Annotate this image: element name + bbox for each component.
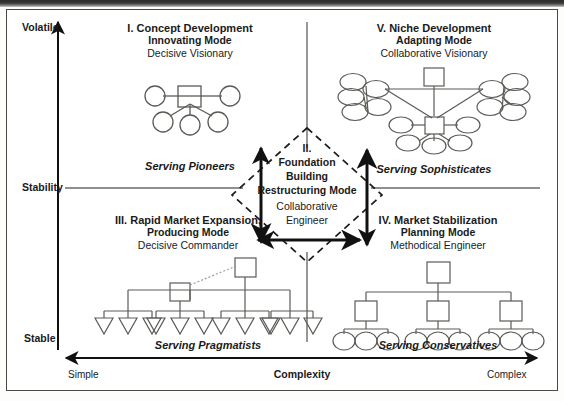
- center-line-3: Restructuring Mode: [257, 184, 356, 197]
- quadrant-i-serving: Serving Pioneers: [145, 160, 235, 173]
- org-chart-quadrant-iv: [333, 262, 544, 350]
- axis-label-stability: Stability: [22, 182, 63, 194]
- quadrant-v-title: V. Niche Development: [377, 22, 492, 35]
- quadrant-iii-role: Decisive Commander: [138, 240, 238, 252]
- axis-label-complex: Complex: [487, 369, 526, 380]
- diagram-page: Volatile Stability Stable Simple Complex…: [0, 0, 564, 401]
- axis-label-stable: Stable: [24, 333, 56, 345]
- quadrant-iii-serving: Serving Pragmatists: [155, 339, 261, 352]
- org-chart-quadrant-iii: [95, 258, 322, 334]
- center-line-2: Building: [286, 170, 328, 183]
- quadrant-i-title: I. Concept Development: [127, 22, 252, 35]
- quadrant-iii-mode: Producing Mode: [147, 227, 229, 239]
- quadrant-iv-serving: Serving Conservatives: [379, 339, 498, 352]
- quadrant-v-mode: Adapting Mode: [396, 35, 472, 47]
- quadrant-i-mode: Innovating Mode: [148, 35, 231, 47]
- center-line-1: Foundation: [278, 156, 335, 169]
- axis-label-complexity: Complexity: [274, 369, 331, 381]
- quadrant-iv-title: IV. Market Stabilization: [379, 214, 498, 227]
- center-id: II.: [303, 142, 312, 155]
- quadrant-v-serving: Serving Sophisticates: [377, 163, 492, 176]
- quadrant-iii-title: III. Rapid Market Expansion,: [115, 214, 261, 227]
- quadrant-v-role: Collaborative Visionary: [380, 48, 487, 60]
- center-role-line-1: Collaborative: [276, 200, 337, 213]
- org-chart-quadrant-v: [338, 68, 530, 154]
- center-role-line-2: Engineer: [286, 214, 328, 227]
- org-chart-quadrant-i: [145, 86, 240, 135]
- quadrant-i-role: Decisive Visionary: [147, 48, 233, 60]
- quadrant-iv-mode: Planning Mode: [401, 227, 476, 239]
- axis-label-simple: Simple: [68, 369, 99, 380]
- quadrant-iv-role: Methodical Engineer: [390, 240, 486, 252]
- axis-label-volatile: Volatile: [22, 22, 59, 34]
